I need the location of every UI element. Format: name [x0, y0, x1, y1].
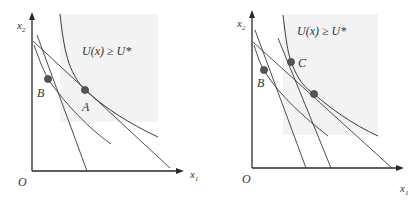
point-c: [287, 58, 294, 65]
y-axis-arrow-icon: [249, 10, 255, 18]
point-tangent: [310, 90, 317, 97]
point-b: [44, 75, 51, 82]
point-c-label: C: [298, 56, 307, 70]
origin-label: O: [242, 172, 251, 186]
right-diagram: C B U(x) ≥ U* x2 x1 O: [210, 0, 419, 201]
origin-label: O: [18, 175, 27, 189]
point-a: [81, 86, 88, 93]
left-diagram: A B U(x) ≥ U* x2 x1 O: [0, 0, 210, 201]
y-axis-label: x2: [16, 19, 26, 34]
y-axis-label: x2: [236, 17, 246, 32]
upper-contour-region: [60, 14, 158, 122]
region-label: U(x) ≥ U*: [82, 44, 131, 58]
point-b: [260, 66, 267, 73]
point-a-label: A: [81, 100, 90, 114]
x-axis-arrow-icon: [396, 165, 404, 171]
point-b-label: B: [37, 86, 45, 100]
x-axis-label: x1: [399, 182, 408, 197]
point-b-label: B: [257, 76, 265, 90]
x-axis-label: x1: [189, 168, 198, 183]
x-axis-arrow-icon: [176, 168, 184, 174]
region-label: U(x) ≥ U*: [297, 24, 346, 38]
y-axis-arrow-icon: [29, 12, 35, 20]
